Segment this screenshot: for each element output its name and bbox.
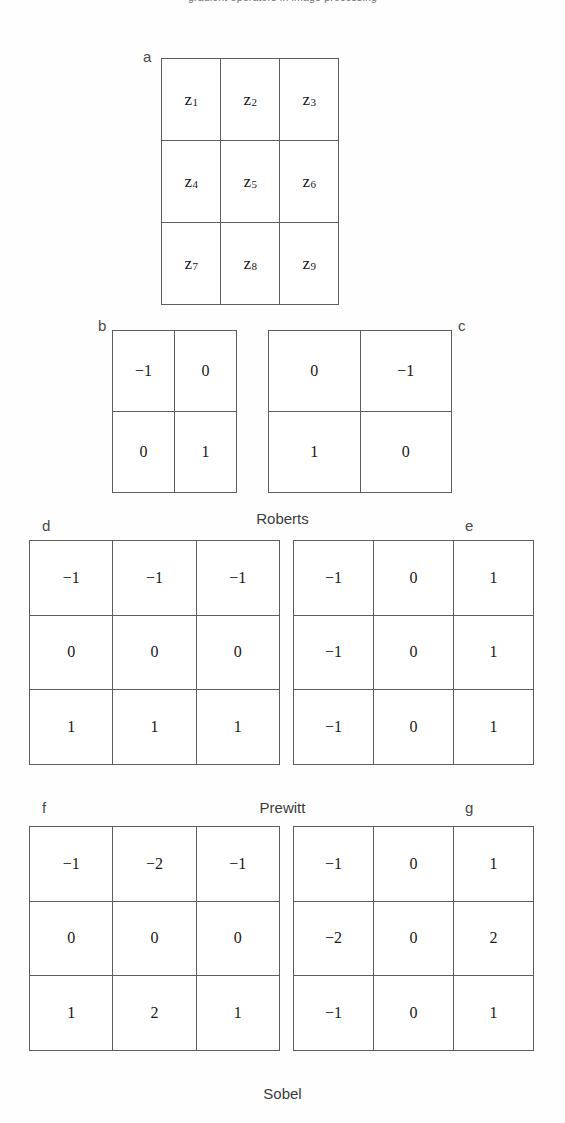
matrix-cell: 0: [197, 616, 280, 691]
z-symbol: z: [243, 173, 251, 190]
panel-letter-a: a: [143, 49, 151, 64]
caption-prewitt: Prewitt: [0, 800, 565, 815]
matrix-cell: 1: [30, 690, 113, 765]
matrix-cell: −1: [294, 976, 374, 1051]
z-subscript: 3: [311, 97, 317, 108]
panel-letter-c: c: [458, 318, 466, 333]
z-symbol: z: [302, 91, 310, 108]
matrix-cell: 0: [113, 412, 175, 493]
matrix-cell: 1: [30, 976, 113, 1051]
z-subscript: 4: [193, 179, 199, 190]
matrix-cell: z8: [221, 223, 280, 305]
matrix-cell: z2: [221, 59, 280, 141]
matrix-cell: −2: [294, 902, 374, 977]
matrix-cell: 1: [454, 976, 534, 1051]
z-subscript: 8: [252, 261, 258, 272]
matrix-prewitt-gy: −1 0 1 −1 0 1 −1 0 1: [293, 540, 534, 765]
matrix-cell: −1: [294, 541, 374, 616]
z-subscript: 5: [252, 179, 258, 190]
matrix-cell: z6: [280, 141, 339, 223]
matrix-cell: 1: [454, 616, 534, 691]
matrix-cell: −1: [294, 616, 374, 691]
z-symbol: z: [243, 255, 251, 272]
matrix-cell: 0: [361, 412, 453, 493]
matrix-cell: 0: [374, 902, 454, 977]
matrix-cell: 1: [454, 541, 534, 616]
matrix-cell: z4: [162, 141, 221, 223]
matrix-neighborhood-a: z1 z2 z3 z4 z5 z6 z7 z8 z9: [161, 58, 339, 305]
matrix-cell: −1: [30, 827, 113, 902]
z-subscript: 7: [193, 261, 199, 272]
matrix-cell: z1: [162, 59, 221, 141]
matrix-cell: 0: [113, 902, 196, 977]
matrix-cell: z9: [280, 223, 339, 305]
matrix-cell: −1: [113, 541, 196, 616]
matrix-sobel-gy: −1 0 1 −2 0 2 −1 0 1: [293, 826, 534, 1051]
z-symbol: z: [302, 173, 310, 190]
matrix-cell: −1: [294, 827, 374, 902]
panel-letter-e: e: [465, 518, 473, 533]
matrix-roberts-gx: −1 0 0 1: [112, 330, 237, 493]
z-symbol: z: [184, 173, 192, 190]
matrix-cell: 0: [374, 827, 454, 902]
matrix-cell: 0: [30, 616, 113, 691]
caption-roberts: Roberts: [0, 511, 565, 526]
z-subscript: 1: [193, 97, 199, 108]
panel-letter-b: b: [98, 318, 106, 333]
matrix-cell: 1: [113, 690, 196, 765]
matrix-cell: 1: [197, 690, 280, 765]
matrix-cell: z5: [221, 141, 280, 223]
matrix-cell: 2: [454, 902, 534, 977]
z-symbol: z: [302, 255, 310, 272]
matrix-prewitt-gx: −1 −1 −1 0 0 0 1 1 1: [29, 540, 280, 765]
z-subscript: 2: [252, 97, 258, 108]
z-subscript: 9: [311, 261, 317, 272]
panel-letter-d: d: [42, 518, 50, 533]
matrix-cell: 1: [269, 412, 361, 493]
z-symbol: z: [184, 91, 192, 108]
figure-page: gradient operators in image processing a…: [0, 0, 565, 1123]
matrix-sobel-gx: −1 −2 −1 0 0 0 1 2 1: [29, 826, 280, 1051]
matrix-cell: z3: [280, 59, 339, 141]
matrix-cell: 1: [197, 976, 280, 1051]
matrix-cell: 0: [197, 902, 280, 977]
matrix-cell: 1: [454, 827, 534, 902]
panel-letter-f: f: [42, 800, 46, 815]
matrix-cell: 1: [454, 690, 534, 765]
z-symbol: z: [184, 255, 192, 272]
caption-sobel: Sobel: [0, 1086, 565, 1101]
matrix-cell: 0: [30, 902, 113, 977]
matrix-cell: −1: [113, 331, 175, 412]
matrix-cell: 0: [175, 331, 237, 412]
matrix-cell: 0: [374, 541, 454, 616]
z-subscript: 6: [311, 179, 317, 190]
matrix-cell: 0: [374, 976, 454, 1051]
matrix-cell: 2: [113, 976, 196, 1051]
matrix-cell: −1: [30, 541, 113, 616]
matrix-cell: z7: [162, 223, 221, 305]
matrix-cell: 0: [269, 331, 361, 412]
matrix-roberts-gy: 0 −1 1 0: [268, 330, 452, 493]
matrix-cell: 0: [113, 616, 196, 691]
z-symbol: z: [243, 91, 251, 108]
panel-letter-g: g: [465, 800, 473, 815]
matrix-cell: −1: [197, 827, 280, 902]
matrix-cell: −1: [294, 690, 374, 765]
matrix-cell: −2: [113, 827, 196, 902]
matrix-cell: 0: [374, 616, 454, 691]
matrix-cell: −1: [361, 331, 453, 412]
matrix-cell: 1: [175, 412, 237, 493]
clipped-top-caption: gradient operators in image processing: [0, 0, 565, 3]
matrix-cell: −1: [197, 541, 280, 616]
matrix-cell: 0: [374, 690, 454, 765]
